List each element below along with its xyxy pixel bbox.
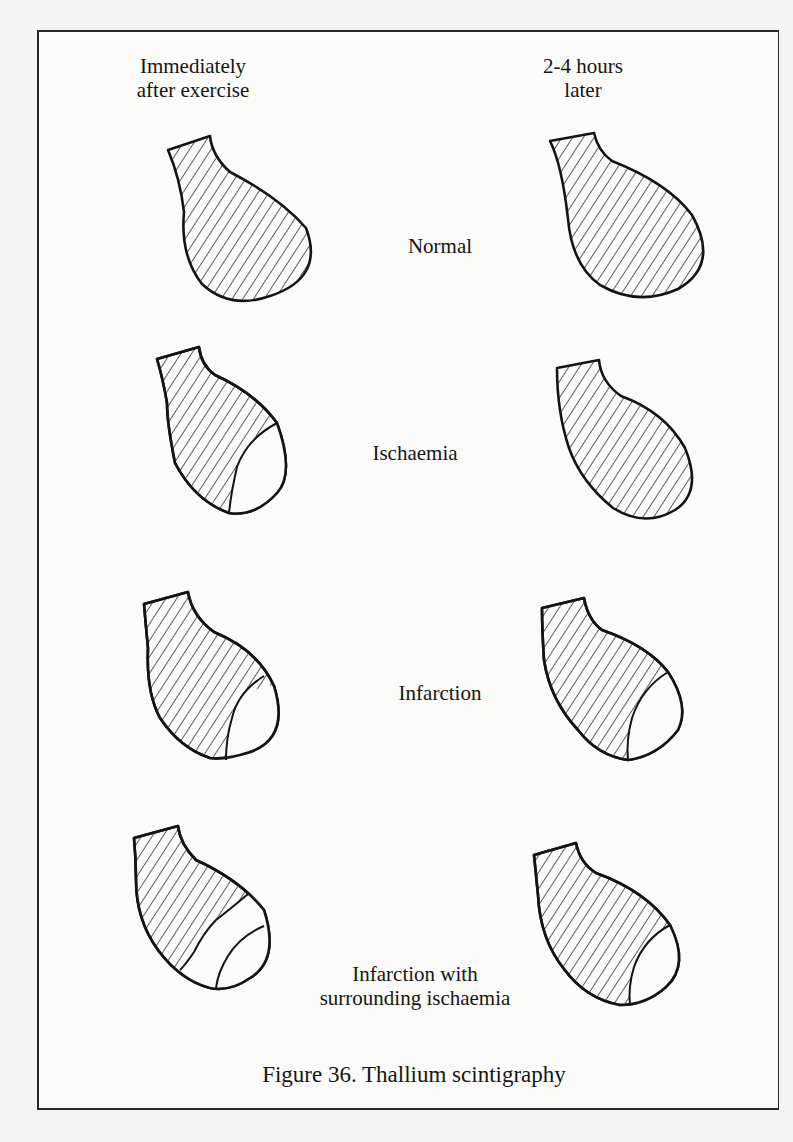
column-header-later: 2-4 hours later [543, 54, 623, 102]
header-line: 2-4 hours [543, 54, 623, 78]
label-line: Normal [408, 234, 472, 258]
header-line: Immediately [137, 54, 250, 78]
heart-normal-after-exercise [160, 128, 330, 308]
heart-normal-later [548, 125, 718, 305]
header-line: later [543, 78, 623, 102]
heart-infarction-after-exercise [140, 588, 310, 768]
label-line: Infarction with [320, 962, 511, 986]
column-header-after-exercise: Immediately after exercise [137, 54, 250, 102]
label-line: surrounding ischaemia [320, 986, 511, 1010]
row-label-infarction-with-ischaemia: Infarction with surrounding ischaemia [320, 962, 511, 1010]
row-label-normal: Normal [408, 234, 472, 258]
heart-infarction-ischaemia-later [530, 835, 700, 1010]
heart-infarction-later [538, 590, 698, 770]
row-label-ischaemia: Ischaemia [372, 441, 457, 465]
label-line: Infarction [399, 681, 482, 705]
label-line: Ischaemia [372, 441, 457, 465]
row-label-infarction: Infarction [399, 681, 482, 705]
heart-ischaemia-later [535, 352, 705, 524]
header-line: after exercise [137, 78, 250, 102]
heart-infarction-ischaemia-after-exercise [130, 820, 300, 995]
figure-caption: Figure 36. Thallium scintigraphy [262, 1063, 566, 1087]
heart-ischaemia-after-exercise [155, 343, 315, 515]
